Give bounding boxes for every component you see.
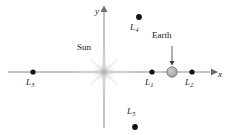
lagrange-dot-L5 (132, 124, 138, 130)
lagrange-label-L3: L3 (26, 78, 34, 87)
x-axis-label: x (218, 70, 222, 79)
diagram-canvas (0, 0, 229, 135)
sun-label: Sun (77, 43, 91, 52)
lagrange-dot-L2 (189, 69, 194, 74)
lagrange-point-diagram: Sun Earth x y L3 L1 L2 L4 L5 (0, 0, 229, 135)
lagrange-label-L2: L2 (185, 78, 193, 87)
earth-label: Earth (152, 31, 172, 40)
lagrange-dot-L1 (149, 69, 154, 74)
earth-body (167, 67, 177, 77)
lagrange-label-L4-subscript: 4 (135, 26, 138, 33)
lagrange-label-L1-subscript: 1 (150, 81, 153, 88)
sun-starburst-icon (74, 44, 134, 100)
lagrange-label-L2-subscript: 2 (190, 81, 193, 88)
x-axis-arrowhead (211, 69, 218, 76)
lagrange-label-L1: L1 (145, 78, 153, 87)
lagrange-dot-L3 (30, 69, 35, 74)
lagrange-dot-L4 (136, 14, 142, 20)
earth-pointer-arrow (169, 46, 174, 66)
lagrange-label-L4: L4 (130, 23, 138, 32)
lagrange-label-L3-subscript: 3 (31, 81, 34, 88)
y-axis-label: y (95, 7, 99, 16)
lagrange-label-L5: L5 (127, 107, 135, 116)
lagrange-label-L5-subscript: 5 (132, 110, 135, 117)
earth-circle (167, 67, 177, 77)
y-axis-arrowhead (101, 6, 108, 13)
